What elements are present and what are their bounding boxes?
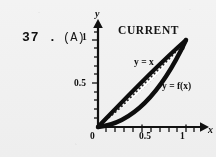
figure-page: 37 . (A) — [0, 0, 216, 157]
y-axis-label: y — [95, 8, 99, 19]
label-curve-y-equals-f-of-x: y = f(x) — [162, 81, 191, 91]
y-tick-1: 1 — [82, 32, 87, 42]
x-axis-label: x — [208, 124, 213, 135]
x-tick-0: 0 — [90, 131, 95, 141]
y-tick-0-5: 0.5 — [74, 78, 86, 88]
label-line-y-equals-x: y = x — [134, 57, 154, 67]
current-watermark: CURRENT — [118, 24, 179, 36]
x-tick-0-5: 0.5 — [139, 131, 151, 141]
x-tick-1: 1 — [180, 131, 185, 141]
